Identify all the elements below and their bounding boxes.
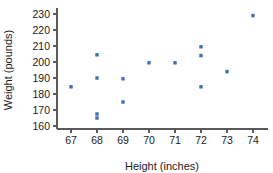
x-axis-ticks: 6768697071727374 (65, 129, 259, 146)
x-tick-label: 69 (117, 134, 129, 146)
y-tick-label: 210 (32, 40, 50, 52)
plot-svg: 160170180190200210220230 676869707172737… (0, 0, 273, 173)
scatter-point (95, 53, 98, 56)
x-tick-label: 74 (247, 134, 259, 146)
plot-axes (57, 8, 268, 129)
y-tick-label: 170 (32, 104, 50, 116)
scatter-point (69, 85, 72, 88)
scatter-point (225, 70, 228, 73)
scatter-point (147, 61, 150, 64)
scatter-point (95, 116, 98, 119)
scatter-point (199, 45, 202, 48)
x-tick-label: 71 (169, 134, 181, 146)
y-tick-label: 160 (32, 120, 50, 132)
scatter-point (95, 76, 98, 79)
scatter-point (199, 85, 202, 88)
x-tick-label: 67 (65, 134, 77, 146)
y-tick-label: 200 (32, 56, 50, 68)
y-tick-label: 220 (32, 24, 50, 36)
y-axis-ticks: 160170180190200210220230 (32, 8, 57, 132)
scatter-point (121, 77, 124, 80)
y-tick-label: 180 (32, 88, 50, 100)
y-tick-label: 230 (32, 8, 50, 20)
scatter-plot-figure: 160170180190200210220230 676869707172737… (0, 0, 273, 173)
x-tick-label: 73 (221, 134, 233, 146)
x-tick-label: 72 (195, 134, 207, 146)
x-tick-label: 70 (143, 134, 155, 146)
scatter-point (251, 14, 254, 17)
x-tick-label: 68 (91, 134, 103, 146)
data-points (69, 14, 254, 120)
scatter-point (173, 61, 176, 64)
scatter-point (199, 54, 202, 57)
y-axis-title: Weight (pounds) (2, 30, 14, 111)
scatter-point (95, 112, 98, 115)
scatter-point (121, 100, 124, 103)
y-tick-label: 190 (32, 72, 50, 84)
x-axis-title: Height (inches) (125, 160, 199, 172)
